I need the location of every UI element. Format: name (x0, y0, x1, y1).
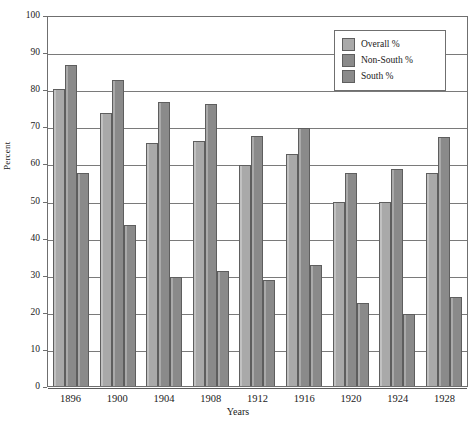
legend-label-overall: Overall % (361, 40, 400, 50)
bar-1904-non-south (158, 102, 170, 386)
bar-1900-overall (100, 113, 112, 386)
x-tick-label-1896: 1896 (47, 389, 93, 404)
bar-chart: Percent 1009080706050403020100 189619001… (0, 0, 476, 429)
y-tick-label-90: 90 (14, 48, 40, 58)
legend-label-non-south: Non-South % (361, 56, 413, 66)
bar-1916-south (310, 265, 322, 386)
y-tick-label-50: 50 (14, 197, 40, 207)
bar-1916-non-south (298, 128, 310, 386)
bar-1928-south (450, 297, 462, 386)
bar-1912-non-south (251, 136, 263, 386)
x-tick-label-1928: 1928 (422, 389, 468, 404)
x-tick-label-1904: 1904 (141, 389, 187, 404)
legend-item-south: South % (342, 69, 439, 84)
y-tick-label-0: 0 (14, 382, 40, 392)
bar-1908-south (217, 271, 229, 386)
bar-1916-overall (286, 154, 298, 386)
bar-1896-south (77, 173, 89, 386)
bar-1924-non-south (391, 169, 403, 386)
y-tick-label-10: 10 (14, 345, 40, 355)
y-tick-label-30: 30 (14, 271, 40, 281)
x-tick-label-1900: 1900 (94, 389, 140, 404)
bar-1920-south (357, 303, 369, 386)
bar-1928-overall (426, 173, 438, 386)
bar-1904-south (170, 277, 182, 386)
bar-1904-overall (146, 143, 158, 386)
bar-group-1900 (100, 17, 136, 386)
bar-1900-south (124, 225, 136, 386)
bar-1912-overall (239, 165, 251, 386)
bar-1924-overall (379, 202, 391, 386)
legend-swatch-overall (342, 38, 355, 51)
bar-1920-overall (333, 202, 345, 386)
legend-item-overall: Overall % (342, 37, 439, 52)
bar-1924-south (403, 314, 415, 386)
bar-1900-non-south (112, 80, 124, 386)
bar-1928-non-south (438, 137, 450, 386)
x-tick-label-1916: 1916 (281, 389, 327, 404)
bar-group-1896 (53, 17, 89, 386)
y-tick-mark-0 (43, 387, 47, 388)
bar-1920-non-south (345, 173, 357, 386)
bar-group-1904 (146, 17, 182, 386)
y-tick-label-80: 80 (14, 85, 40, 95)
x-tick-label-1924: 1924 (375, 389, 421, 404)
bar-group-1908 (193, 17, 229, 386)
legend: Overall % Non-South % South % (334, 30, 446, 91)
y-tick-label-70: 70 (14, 122, 40, 132)
bar-group-1916 (286, 17, 322, 386)
legend-item-non-south: Non-South % (342, 53, 439, 68)
y-tick-label-60: 60 (14, 159, 40, 169)
bar-1908-non-south (205, 104, 217, 386)
bar-1896-non-south (65, 65, 77, 386)
y-tick-label-100: 100 (14, 11, 40, 21)
legend-label-south: South % (361, 72, 393, 82)
y-tick-label-20: 20 (14, 308, 40, 318)
legend-swatch-non-south (342, 54, 355, 67)
legend-swatch-south (342, 70, 355, 83)
bar-1896-overall (53, 89, 65, 386)
bar-1908-overall (193, 141, 205, 386)
x-axis-title: Years (0, 406, 476, 417)
bar-group-1912 (239, 17, 275, 386)
bar-1912-south (263, 280, 275, 386)
y-tick-label-40: 40 (14, 234, 40, 244)
x-tick-label-1912: 1912 (234, 389, 280, 404)
x-tick-label-1920: 1920 (328, 389, 374, 404)
x-axis-ticks: 189619001904190819121916192019241928 (47, 389, 468, 407)
x-tick-label-1908: 1908 (188, 389, 234, 404)
